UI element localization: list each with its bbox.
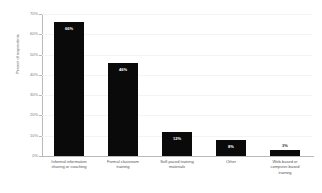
bar-group[interactable]: 12% (162, 14, 192, 156)
bar-value-label: 46% (108, 67, 138, 72)
y-tick-label: 70% (20, 11, 38, 16)
category-label-line: Other (204, 159, 258, 164)
bar-group[interactable]: 8% (216, 14, 246, 156)
y-tick-label: 40% (20, 72, 38, 77)
x-axis-category-labels: Informal informationsharing or coachingF… (42, 159, 312, 191)
bar-value-label: 12% (162, 136, 192, 141)
bar-chart: Percent of respondents 70%60%50%40%30%20… (0, 0, 322, 193)
category-label-line: sharing or coaching (42, 164, 96, 169)
category-label: Self-paced trainingmaterials (150, 159, 204, 170)
bar[interactable] (54, 22, 84, 156)
y-tick-label: 10% (20, 133, 38, 138)
y-tick-label: 60% (20, 31, 38, 36)
bar-value-label: 8% (216, 144, 246, 149)
x-axis-line (42, 156, 314, 157)
category-label: Other (204, 159, 258, 164)
category-label-line: training (258, 170, 312, 175)
tick-mark (39, 156, 42, 157)
y-tick-label: 0% (20, 153, 38, 158)
category-label: Formal classroomtraining (96, 159, 150, 170)
bars-layer: 66%46%12%8%3% (42, 14, 312, 156)
category-label-line: materials (150, 164, 204, 169)
y-tick-label: 30% (20, 92, 38, 97)
bar[interactable] (108, 63, 138, 156)
bar-group[interactable]: 66% (54, 14, 84, 156)
bar-group[interactable]: 46% (108, 14, 138, 156)
bar-value-label: 66% (54, 26, 84, 31)
category-label: Informal informationsharing or coaching (42, 159, 96, 170)
y-tick-label: 20% (20, 112, 38, 117)
bar-value-label: 3% (270, 143, 300, 148)
category-label: Web-based orcomputer-basedtraining (258, 159, 312, 175)
category-label-line: training (96, 164, 150, 169)
y-tick-label: 50% (20, 52, 38, 57)
plot-area: 70%60%50%40%30%20%10%0% 66%46%12%8%3% (42, 14, 312, 156)
bar-group[interactable]: 3% (270, 14, 300, 156)
bar[interactable] (270, 150, 300, 156)
